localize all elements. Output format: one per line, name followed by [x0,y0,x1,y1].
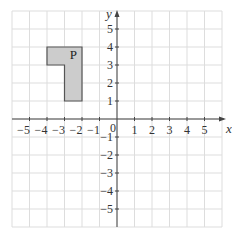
y-tick-label: −2 [100,148,113,162]
origin-label: 0 [110,121,116,135]
y-axis-label: y [104,6,112,21]
y-tick-label: 5 [107,22,113,36]
y-tick-label: 4 [107,40,113,54]
shape-label: P [70,47,77,62]
x-tick-label: 5 [202,123,208,137]
x-tick-label: 1 [132,123,138,137]
x-tick-label: −5 [17,123,30,137]
x-tick-label: −4 [35,123,48,137]
y-tick-label: −5 [100,202,113,216]
y-tick-label: −4 [100,184,113,198]
x-tick-label: 4 [184,123,190,137]
x-tick-label: −1 [87,123,100,137]
x-tick-label: −3 [52,123,65,137]
y-tick-label: 3 [107,58,113,72]
y-tick-label: −3 [100,166,113,180]
x-axis-label: x [225,121,232,136]
x-tick-label: 3 [167,123,173,137]
x-tick-label: −2 [70,123,83,137]
y-tick-label: 2 [107,76,113,90]
y-tick-label: 1 [107,94,113,108]
coordinate-grid: P −5−4−3−2−11234554321−1−2−3−4−5 x y 0 [0,0,232,237]
x-tick-label: 2 [149,123,155,137]
axes [12,10,226,227]
